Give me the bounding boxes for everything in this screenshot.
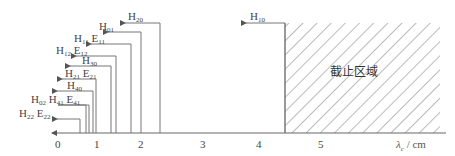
tick-2: 2 (138, 138, 144, 150)
tick-1: 1 (94, 138, 100, 150)
mode-line-h22-e22 (57, 119, 80, 133)
axis-unit: / cm (404, 138, 426, 150)
tick-5: 5 (318, 138, 324, 150)
mode-line-h20 (125, 23, 160, 133)
label-h20: H20 (128, 11, 143, 26)
mode-line-h10 (246, 23, 285, 133)
tick-3: 3 (200, 138, 206, 150)
label-h22-e22: H22 E22 (19, 108, 50, 123)
x-axis-label: λc / cm (396, 138, 426, 153)
tick-0: 0 (55, 138, 61, 150)
cutoff-region-label: 截止区域 (330, 62, 378, 79)
mode-line-h01 (108, 32, 141, 133)
label-h10: H10 (250, 11, 265, 26)
tick-4: 4 (256, 138, 262, 150)
